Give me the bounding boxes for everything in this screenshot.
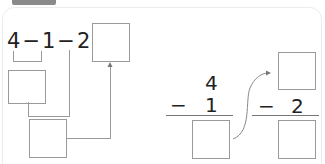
vertical-carry-box[interactable] bbox=[278, 52, 316, 90]
vertical-rule-2 bbox=[252, 115, 319, 116]
curved-arrow-icon bbox=[0, 0, 325, 164]
vertical-answer-box-2[interactable] bbox=[278, 120, 316, 159]
vertical-minus-sign-2: − bbox=[258, 95, 275, 117]
vertical-bottom-2: 2 bbox=[291, 95, 304, 117]
